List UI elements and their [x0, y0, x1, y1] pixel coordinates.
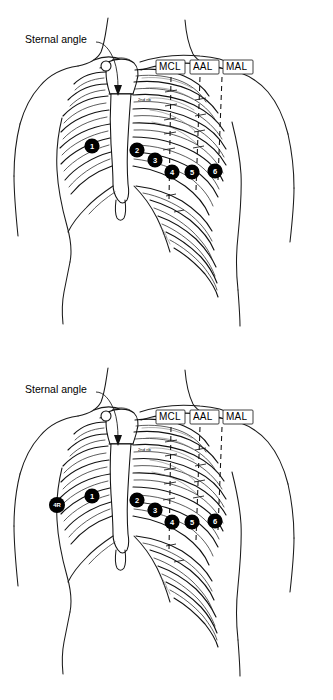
mcl-dashed-line	[169, 77, 171, 200]
ribs-right-of-viewer	[133, 419, 226, 647]
position-marker-4r-label: 4R	[53, 502, 61, 508]
position-marker-3[interactable]: 3	[147, 502, 162, 517]
position-marker-1[interactable]: 1	[84, 138, 99, 153]
anterior-chest-panel-lower: Sternal angle 2nd rib	[0, 350, 333, 700]
position-marker-6[interactable]: 6	[207, 513, 222, 528]
position-marker-5-label: 5	[190, 168, 194, 177]
position-marker-5-label: 5	[190, 518, 194, 527]
position-marker-4[interactable]: 4	[164, 514, 179, 529]
position-marker-6[interactable]: 6	[207, 163, 222, 178]
position-marker-3-label: 3	[153, 156, 157, 165]
aal-label-text: AAL	[193, 61, 213, 72]
position-marker-6-label: 6	[213, 167, 217, 176]
position-marker-4r[interactable]: 4R	[49, 497, 65, 513]
line-label-aal: AAL	[190, 60, 219, 74]
line-label-aal: AAL	[190, 410, 219, 424]
line-label-mcl: MCL	[156, 60, 185, 74]
position-marker-1[interactable]: 1	[84, 488, 99, 503]
position-marker-3-label: 3	[153, 506, 157, 515]
aal-label-text: AAL	[193, 411, 213, 422]
mcl-label-text: MCL	[159, 411, 181, 422]
ribs-right-of-viewer	[133, 69, 226, 297]
position-marker-2[interactable]: 2	[129, 492, 144, 507]
anterior-chest-panel-upper: Sternal angle 2nd rib	[0, 0, 333, 350]
mal-label-text: MAL	[226, 61, 247, 72]
position-marker-1-label: 1	[90, 142, 94, 151]
pectoral-contour	[150, 110, 196, 132]
position-marker-5[interactable]: 5	[184, 514, 199, 529]
second-rib-label: 2nd rib	[138, 97, 151, 102]
mcl-dashed-line	[169, 427, 171, 550]
second-rib-label: 2nd rib	[138, 447, 151, 452]
position-marker-5[interactable]: 5	[184, 164, 199, 179]
mcl-label-text: MCL	[159, 61, 181, 72]
position-marker-4[interactable]: 4	[164, 164, 179, 179]
line-label-mcl: MCL	[156, 410, 185, 424]
position-marker-6-label: 6	[213, 517, 217, 526]
line-label-mal: MAL	[223, 410, 253, 424]
position-markers: 1 2 3 4 5 6	[84, 138, 222, 179]
position-marker-2[interactable]: 2	[129, 142, 144, 157]
line-label-mal: MAL	[223, 60, 253, 74]
sternal-angle-label: Sternal angle	[25, 383, 87, 395]
position-marker-2-label: 2	[135, 146, 139, 155]
sternal-angle-label: Sternal angle	[25, 33, 87, 45]
position-marker-1-label: 1	[90, 492, 94, 501]
pectoral-contour	[150, 460, 196, 482]
mal-label-text: MAL	[226, 411, 247, 422]
position-marker-2-label: 2	[135, 496, 139, 505]
position-marker-3[interactable]: 3	[147, 152, 162, 167]
